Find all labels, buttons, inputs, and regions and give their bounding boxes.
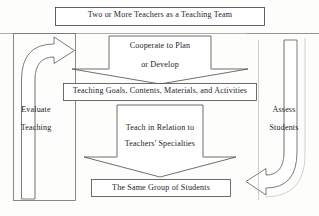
cooperate-chevron-label-line2: or Develop — [100, 61, 220, 69]
left-caption-line1: Evaluate — [8, 106, 64, 114]
team-box-label: Two or More Teachers as a Teaching Team — [58, 11, 262, 19]
right-caption-line2: Students — [256, 124, 312, 132]
left-curved-arrow — [22, 37, 75, 199]
students-box-label: The Same Group of Students — [92, 184, 230, 192]
right-curved-arrow — [246, 40, 297, 195]
left-caption-line2: Teaching — [8, 124, 64, 132]
teach-chevron-label-line1: Teach in Relation to — [100, 124, 220, 132]
right-caption-line1: Assess — [256, 106, 312, 114]
teach-chevron-label-line2: Teachers' Specialties — [100, 140, 220, 148]
diagram-canvas: Two or More Teachers as a Teaching Team … — [0, 0, 319, 216]
goals-box-label: Teaching Goals, Contents, Materials, and… — [60, 87, 260, 95]
cooperate-chevron-label-line1: Cooperate to Plan — [100, 42, 220, 50]
